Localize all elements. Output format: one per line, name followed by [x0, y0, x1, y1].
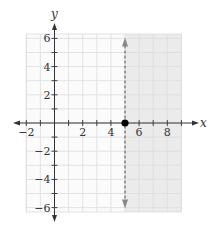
coordinate-graph: −22468642−2−4−6 x y: [0, 0, 212, 231]
y-tick-label: −2: [34, 145, 50, 158]
y-tick-label: −6: [34, 202, 50, 215]
x-tick-label: 4: [107, 126, 114, 139]
x-tick-label: 8: [164, 126, 171, 139]
x-tick-label: 6: [136, 126, 143, 139]
x-tick-label: 2: [79, 126, 86, 139]
x-axis-right-arrow-icon: [192, 121, 199, 126]
x-axis-label: x: [200, 116, 207, 130]
y-axis-label: y: [50, 7, 58, 21]
y-tick-label: 4: [44, 61, 51, 74]
point-marker: [121, 119, 128, 126]
y-tick-label: 6: [44, 32, 51, 45]
y-tick-label: −4: [34, 173, 50, 186]
x-axis-left-arrow-icon: [13, 121, 20, 126]
y-axis-down-arrow-icon: [52, 215, 57, 222]
x-tick-label: −2: [18, 126, 34, 139]
y-tick-label: 2: [44, 89, 51, 102]
points: [121, 119, 128, 126]
y-axis-up-arrow-icon: [52, 23, 57, 30]
